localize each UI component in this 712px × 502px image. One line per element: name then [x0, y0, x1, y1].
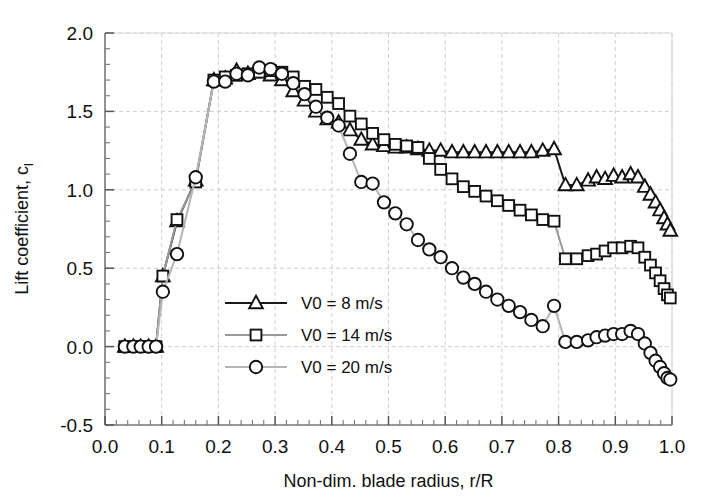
data-point-square	[311, 84, 322, 95]
x-tick-label: 0.5	[375, 436, 401, 457]
data-point-circle	[230, 68, 242, 80]
data-point-circle	[446, 262, 458, 274]
data-point-square	[390, 139, 401, 150]
data-point-square	[401, 140, 412, 151]
data-point-square	[345, 111, 356, 122]
data-point-circle	[525, 314, 537, 326]
data-point-circle	[503, 300, 515, 312]
data-point-circle	[219, 75, 231, 87]
x-tick-label: 0.0	[92, 436, 118, 457]
data-point-circle	[321, 111, 333, 123]
data-point-square	[560, 253, 571, 264]
data-point-circle	[150, 340, 162, 352]
legend-label: V0 = 14 m/s	[301, 326, 392, 345]
data-point-circle	[276, 68, 288, 80]
data-point-circle	[571, 336, 583, 348]
data-point-square	[413, 142, 424, 153]
data-point-circle	[157, 286, 169, 298]
y-tick-label: 2.0	[67, 23, 93, 44]
data-point-circle	[190, 171, 202, 183]
data-point-circle	[389, 207, 401, 219]
data-point-circle	[332, 119, 344, 131]
data-point-square	[571, 253, 582, 264]
data-point-circle	[355, 176, 367, 188]
y-tick-label: 1.0	[67, 180, 93, 201]
x-tick-label: 0.8	[545, 436, 571, 457]
data-point-square	[537, 214, 548, 225]
data-point-circle	[253, 61, 265, 73]
data-point-square	[492, 195, 503, 206]
legend-label: V0 = 20 m/s	[301, 358, 392, 377]
data-point-square	[322, 92, 333, 103]
data-point-circle	[171, 248, 183, 260]
data-point-circle	[423, 243, 435, 255]
data-point-square	[458, 181, 469, 192]
data-point-circle	[548, 300, 560, 312]
data-point-circle	[480, 286, 492, 298]
x-tick-label: 0.3	[262, 436, 288, 457]
x-tick-label: 0.7	[489, 436, 515, 457]
data-point-square	[469, 186, 480, 197]
lift-coefficient-chart: 0.00.10.20.30.40.50.60.70.80.91.02.01.51…	[0, 0, 712, 502]
data-point-circle	[537, 320, 549, 332]
chart-figure: 0.00.10.20.30.40.50.60.70.80.91.02.01.51…	[0, 0, 712, 502]
data-point-circle	[378, 196, 390, 208]
x-tick-label: 1.0	[659, 436, 685, 457]
data-point-circle	[664, 373, 676, 385]
y-tick-label: 0.5	[67, 258, 93, 279]
data-point-square	[665, 293, 676, 304]
data-point-circle	[412, 234, 424, 246]
data-point-circle	[434, 251, 446, 263]
data-point-circle	[366, 177, 378, 189]
legend: V0 = 8 m/sV0 = 14 m/sV0 = 20 m/s	[225, 294, 392, 377]
x-tick-label: 0.9	[602, 436, 628, 457]
data-point-circle	[310, 100, 322, 112]
x-tick-label: 0.2	[205, 436, 231, 457]
data-point-square	[356, 119, 367, 130]
data-point-circle	[344, 148, 356, 160]
data-point-circle	[242, 69, 254, 81]
y-tick-label: 0.0	[67, 337, 93, 358]
data-point-square	[526, 209, 537, 220]
data-point-square	[503, 200, 514, 211]
x-tick-label: 0.4	[319, 436, 346, 457]
data-point-square	[435, 164, 446, 175]
y-tick-label: 1.5	[67, 101, 93, 122]
data-point-circle	[491, 293, 503, 305]
data-point-circle	[468, 278, 480, 290]
x-tick-label: 0.6	[432, 436, 458, 457]
data-point-square	[549, 216, 560, 227]
data-point-square	[251, 330, 262, 341]
data-point-circle	[287, 77, 299, 89]
data-point-circle	[400, 218, 412, 230]
data-point-circle	[298, 88, 310, 100]
y-tick-label: -0.5	[60, 415, 93, 436]
data-point-square	[379, 134, 390, 145]
data-point-square	[172, 214, 183, 225]
data-point-circle	[514, 306, 526, 318]
legend-label: V0 = 8 m/s	[301, 294, 383, 313]
data-point-square	[333, 98, 344, 109]
data-point-circle	[250, 361, 262, 373]
x-axis-title: Non-dim. blade radius, r/R	[283, 471, 493, 491]
data-point-square	[447, 173, 458, 184]
data-point-square	[515, 205, 526, 216]
data-point-square	[367, 128, 378, 139]
x-tick-label: 0.1	[148, 436, 174, 457]
data-point-square	[481, 191, 492, 202]
data-point-square	[424, 153, 435, 164]
data-point-circle	[457, 271, 469, 283]
